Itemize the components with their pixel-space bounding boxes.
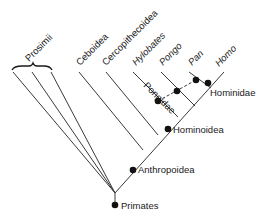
node-pan	[193, 77, 200, 84]
label-pan: Pan	[186, 48, 206, 68]
node-hominoidea	[165, 126, 172, 133]
label-prosimii: Prosimii	[23, 32, 55, 64]
node-anthropoidea	[130, 167, 137, 174]
branch-prosimii-2	[32, 72, 115, 193]
branch-prosimii-1	[13, 72, 115, 193]
node-hominidae	[205, 80, 212, 87]
label-pongidae: Pongidae	[142, 80, 178, 116]
label-pongo: Pongo	[157, 40, 184, 67]
label-hominidae: Hominidae	[210, 87, 255, 98]
branch-ceboidea	[79, 72, 143, 150]
label-homo: Homo	[213, 43, 239, 69]
cladogram: Prosimii Ceboidea Cercopithecoidea Hylob…	[0, 0, 263, 222]
node-primates	[112, 202, 119, 209]
prosimii-bracket	[12, 63, 52, 70]
node-pongo-pan	[174, 88, 181, 95]
label-hominoidea: Hominoidea	[173, 124, 224, 135]
label-anthropoidea: Anthropoidea	[138, 164, 195, 175]
branch-prosimii-3	[51, 72, 115, 193]
label-primates: Primates	[121, 200, 159, 211]
